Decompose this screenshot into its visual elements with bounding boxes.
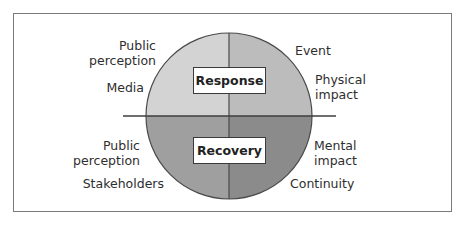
label-line: impact bbox=[315, 87, 366, 102]
label-text: Media bbox=[106, 80, 144, 95]
quadrant-circle bbox=[0, 0, 467, 228]
label-line: perception bbox=[88, 53, 156, 68]
label-event: Event bbox=[295, 43, 331, 58]
label-text: Event bbox=[295, 43, 331, 58]
label-mental-impact: Mental impact bbox=[314, 138, 357, 168]
label-physical-impact: Physical impact bbox=[315, 72, 366, 102]
label-stakeholders: Stakeholders bbox=[62, 176, 164, 191]
label-public-perception-top: Public perception bbox=[88, 38, 156, 68]
response-box: Response bbox=[193, 67, 266, 94]
label-line: Physical bbox=[315, 72, 366, 87]
label-line: Public bbox=[72, 138, 140, 153]
label-line: Mental bbox=[314, 138, 357, 153]
label-continuity: Continuity bbox=[290, 176, 354, 191]
recovery-box: Recovery bbox=[193, 137, 266, 164]
label-text: Stakeholders bbox=[83, 176, 164, 191]
label-media: Media bbox=[100, 80, 144, 95]
label-line: perception bbox=[72, 153, 140, 168]
label-line: Public bbox=[88, 38, 156, 53]
label-line: impact bbox=[314, 153, 357, 168]
label-public-perception-bottom: Public perception bbox=[72, 138, 140, 168]
response-label: Response bbox=[196, 73, 264, 88]
recovery-label: Recovery bbox=[197, 143, 262, 158]
label-text: Continuity bbox=[290, 176, 354, 191]
